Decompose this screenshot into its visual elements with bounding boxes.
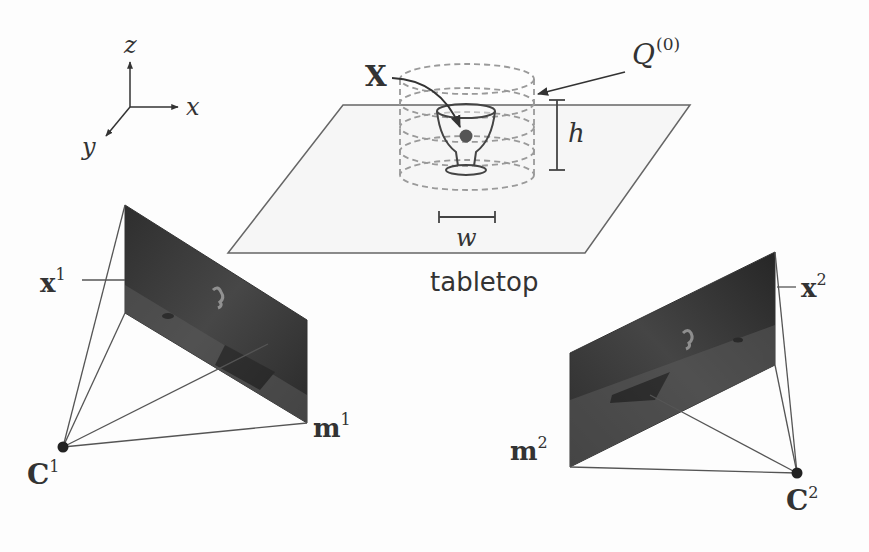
z-axis-label: z	[123, 31, 137, 59]
tabletop: tabletop	[228, 105, 690, 297]
x-axis-label: x	[186, 93, 200, 121]
height-label: h	[568, 118, 585, 148]
camera-1-center-dot	[58, 442, 69, 453]
coordinate-axes: z x y	[81, 31, 200, 161]
point-x-dot	[460, 130, 473, 143]
camera-2-point-label: x2	[801, 270, 827, 303]
diagram-svg: z x y tabletop X Q (0) h	[0, 0, 869, 552]
width-label: w	[456, 224, 477, 252]
camera-2-center-label: C2	[786, 483, 818, 517]
diagram-canvas: z x y tabletop X Q (0) h	[0, 0, 869, 552]
camera-2-center-dot	[792, 468, 803, 479]
volume-arrow	[538, 72, 625, 94]
camera-2-corner-label: m2	[510, 433, 548, 466]
y-axis-label: y	[81, 133, 96, 161]
y-axis	[106, 107, 130, 136]
tabletop-label: tabletop	[430, 267, 538, 297]
camera-1-point-label: x1	[40, 265, 66, 298]
camera-1-center-label: C1	[27, 457, 59, 491]
volume-ellipse-1	[400, 64, 534, 94]
camera-1-corner-label: m1	[313, 410, 351, 443]
camera-2: x2 m2 C2	[510, 252, 827, 517]
point-x-label: X	[365, 60, 387, 93]
volume-label-q: Q	[632, 38, 655, 71]
volume-label-superscript: (0)	[656, 34, 680, 54]
volume-label: Q (0)	[632, 34, 680, 71]
